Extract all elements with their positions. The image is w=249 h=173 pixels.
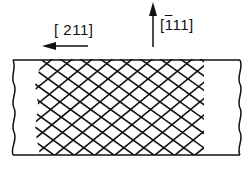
crystal-lattice-diagram bbox=[0, 0, 249, 173]
label-direction-111: [111] bbox=[160, 17, 194, 32]
arrow-111 bbox=[149, 2, 157, 47]
label-direction-211: [ 211] bbox=[54, 22, 93, 37]
arrow-211 bbox=[42, 42, 88, 50]
lattice-grid bbox=[0, 20, 249, 173]
digits-rest: 11] bbox=[172, 16, 193, 33]
